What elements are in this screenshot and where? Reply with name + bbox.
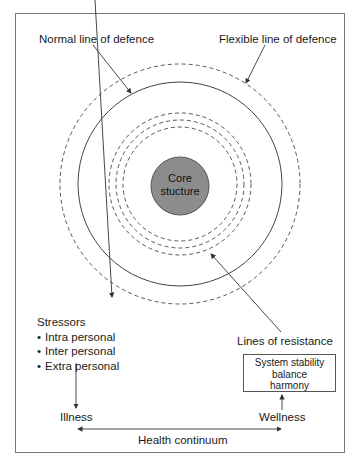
stressor-item: Inter personal [37, 344, 119, 359]
resistance-arrow [211, 254, 281, 332]
core-structure-label: Core stucture [150, 172, 210, 198]
wellness-label: Wellness [259, 410, 305, 424]
stability-line: System stability [244, 357, 335, 369]
normal-line-label: Normal line of defence [39, 32, 154, 46]
circles-diagram [0, 0, 356, 468]
illness-label: Illness [60, 410, 93, 424]
stability-line: balance [244, 369, 335, 381]
core-label-line1: Core [150, 172, 210, 185]
stressors-title: Stressors [37, 315, 119, 330]
flexible-line-arrow [246, 45, 265, 83]
stability-line: harmony [244, 380, 335, 392]
core-label-line2: stucture [150, 185, 210, 198]
stressor-item: Intra personal [37, 330, 119, 345]
health-continuum-label: Health continuum [138, 433, 228, 447]
flexible-line-label: Flexible line of defence [219, 32, 337, 46]
system-stability-box: System stability balance harmony [243, 354, 336, 392]
stressor-item: Extra personal [37, 359, 119, 374]
lines-of-resistance-label: Lines of resistance [237, 334, 333, 348]
stressors-list: Stressors Intra personal Inter personal … [37, 315, 119, 373]
